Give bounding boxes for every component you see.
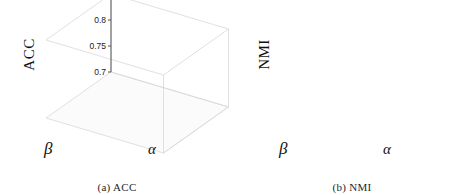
caption-nmi: (b) NMI <box>235 181 469 193</box>
chart-panel-acc: 0.70.750.80.85 ACC β α (a) ACC <box>0 0 234 195</box>
plot-area-nmi: NMI β α <box>235 0 469 168</box>
chart-panel-nmi: NMI β α (b) NMI <box>235 0 469 195</box>
svg-text:0.75: 0.75 <box>89 41 106 51</box>
y-axis-label-nmi: β <box>279 139 287 159</box>
figure-parameter-sensitivity: 0.70.750.80.85 ACC β α (a) ACC NMI β α (… <box>0 0 469 195</box>
plot-area-acc: 0.70.750.80.85 ACC β α <box>0 0 234 168</box>
svg-text:0.7: 0.7 <box>94 67 106 77</box>
z-axis-label-acc: ACC <box>21 20 38 90</box>
caption-acc: (a) ACC <box>0 181 234 193</box>
x-axis-label-acc: α <box>148 141 156 158</box>
x-axis-label-nmi: α <box>383 141 391 158</box>
svg-text:0.8: 0.8 <box>94 15 106 25</box>
z-axis-label-nmi: NMI <box>256 20 273 90</box>
y-axis-label-acc: β <box>44 139 52 159</box>
